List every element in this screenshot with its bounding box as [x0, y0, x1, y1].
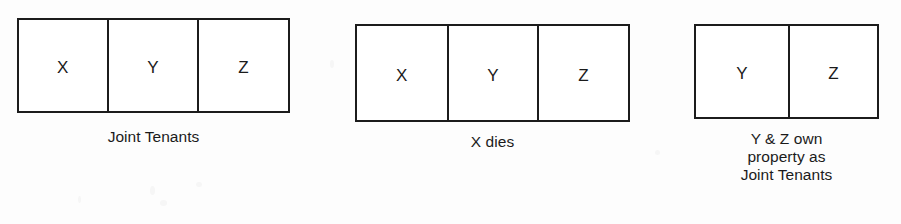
group-caption: X dies: [355, 133, 630, 151]
box-cell-x[interactable]: X: [19, 20, 109, 111]
box-cell-label: Z: [828, 65, 839, 82]
scan-speckle: [330, 60, 334, 68]
diagram-canvas: X Y Z Joint Tenants X Y Z X dies: [0, 0, 901, 224]
box-cell-label: Z: [578, 67, 589, 84]
box-cell-y[interactable]: Y: [696, 26, 790, 117]
box-cell-label: Y: [147, 59, 159, 76]
box-cell-x[interactable]: X: [357, 26, 449, 120]
box-cell-y[interactable]: Y: [109, 20, 200, 111]
box-cell-label: Y: [736, 65, 748, 82]
box-cell-z[interactable]: Z: [790, 26, 877, 117]
box-cell-z[interactable]: Z: [199, 20, 288, 111]
box-row: X Y Z: [17, 18, 290, 113]
box-row: Y Z: [694, 24, 879, 119]
box-cell-z[interactable]: Z: [539, 26, 628, 120]
box-cell-label: Z: [238, 59, 249, 76]
group-caption: Y & Z own property as Joint Tenants: [686, 130, 887, 184]
box-cell-label: X: [57, 59, 69, 76]
box-cell-label: Y: [487, 67, 499, 84]
group-caption: Joint Tenants: [17, 128, 290, 146]
scan-speckle: [196, 182, 202, 187]
box-row: X Y Z: [355, 24, 630, 122]
scan-speckle: [655, 150, 660, 155]
scan-speckle: [78, 196, 81, 203]
box-cell-y[interactable]: Y: [449, 26, 540, 120]
scan-speckle: [150, 186, 155, 195]
box-cell-label: X: [396, 67, 408, 84]
scan-speckle: [160, 200, 167, 206]
